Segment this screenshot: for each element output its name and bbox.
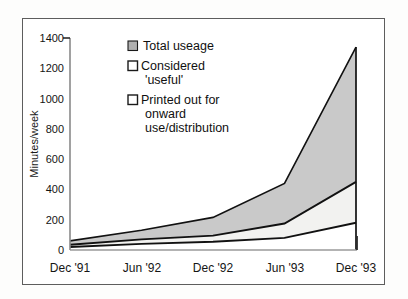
legend-label-printed-out-line2: onward [145, 107, 186, 121]
legend-item-printed-out: Printed out for onward use/distribution [128, 93, 229, 135]
legend-item-total-useage: Total useage [128, 39, 214, 53]
legend-swatch-printed-out [128, 95, 138, 105]
x-tick-label-jun-92: Jun '92 [123, 261, 162, 275]
area-chart: 1400 1200 1000 800 600 400 200 0 Minutes… [0, 0, 408, 299]
y-tick-label-1000: 1000 [40, 93, 64, 105]
legend-label-printed-out-line1: Printed out for [141, 93, 220, 107]
legend-label-printed-out-line3: use/distribution [145, 121, 229, 135]
y-axis-title: Minutes/week [28, 110, 40, 178]
x-tick-label-dec-93: Dec '93 [336, 261, 377, 275]
x-tick-label-dec-91: Dec '91 [50, 261, 91, 275]
y-tick-labels: 1400 1200 1000 800 600 400 200 0 [40, 32, 64, 256]
y-tick-label-800: 800 [46, 123, 64, 135]
y-tick-label-400: 400 [46, 183, 64, 195]
y-tick-label-1400: 1400 [40, 32, 64, 44]
y-tick-label-0: 0 [58, 244, 64, 256]
legend-swatch-total-useage [128, 41, 138, 51]
y-tick-label-200: 200 [46, 214, 64, 226]
legend-label-total-useage: Total useage [143, 39, 214, 53]
figure-container: 1400 1200 1000 800 600 400 200 0 Minutes… [0, 0, 408, 299]
legend-label-considered-useful-line2: 'useful' [145, 73, 183, 87]
legend-label-considered-useful-line1: Considered [141, 59, 205, 73]
x-tick-labels: Dec '91 Jun '92 Dec '92 Jun '93 Dec '93 [50, 261, 377, 275]
y-tick-label-600: 600 [46, 153, 64, 165]
legend-swatch-considered-useful [128, 61, 138, 71]
y-tick-label-1200: 1200 [40, 62, 64, 74]
chart-bands [70, 47, 356, 250]
chart-legend: Total useage Considered 'useful' Printed… [128, 39, 229, 135]
x-tick-label-jun-93: Jun '93 [266, 261, 305, 275]
legend-item-considered-useful: Considered 'useful' [128, 59, 205, 87]
x-tick-label-dec-92: Dec '92 [193, 261, 234, 275]
